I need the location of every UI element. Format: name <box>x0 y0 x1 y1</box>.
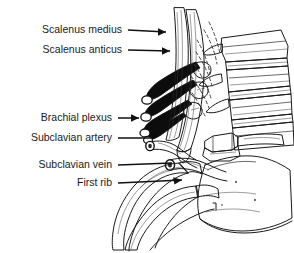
label-scalenus-medius: Scalenus medius <box>42 23 122 35</box>
label-subclavian-vein: Subclavian vein <box>38 158 112 170</box>
label-subclavian-artery: Subclavian artery <box>31 131 113 143</box>
label-scalenus-anticus: Scalenus anticus <box>43 43 122 55</box>
label-brachial-plexus: Brachial plexus <box>41 111 112 123</box>
label-first-rib: First rib <box>77 176 112 188</box>
anatomy-figure: Scalenus medius Scalenus anticus Brachia… <box>0 0 294 253</box>
anatomy-illustration: Scalenus medius Scalenus anticus Brachia… <box>0 0 294 253</box>
